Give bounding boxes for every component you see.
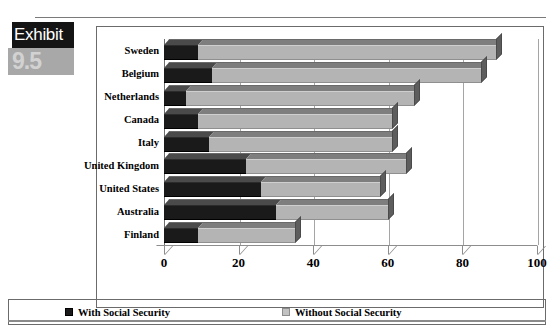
category-label: Belgium (122, 68, 159, 79)
bar-segment[interactable] (164, 91, 186, 106)
axis-tick-label: 60 (381, 255, 394, 271)
bar-end-cap (295, 216, 301, 243)
exhibit-label-block: Exhibit 9.5 (12, 22, 74, 75)
top-divider-rule (35, 17, 546, 18)
bottom-divider-rule (8, 320, 546, 322)
bar-segment[interactable] (276, 205, 388, 220)
bar-row (164, 108, 537, 131)
bar-segment[interactable] (164, 114, 198, 129)
legend-item-with-social-security: With Social Security (65, 307, 170, 318)
bar-segment[interactable] (261, 182, 380, 197)
black-square-icon (65, 308, 73, 316)
legend-item-without-social-security: Without Social Security (282, 307, 402, 318)
bar-top-face (164, 62, 218, 68)
category-label: United States (99, 183, 159, 194)
bar-top-face (164, 199, 281, 205)
bar-segment[interactable] (164, 45, 198, 60)
bar-top-face (186, 85, 419, 91)
plot-area (164, 39, 537, 245)
category-label: Australia (117, 206, 159, 217)
bar-segment[interactable] (164, 68, 212, 83)
bar-end-cap (406, 147, 412, 174)
bar-row (164, 39, 537, 62)
bar-top-face (198, 108, 397, 114)
bar-end-cap (380, 170, 386, 197)
gridline (538, 39, 539, 245)
bar-row (164, 176, 537, 199)
bar-segment[interactable] (186, 91, 414, 106)
axis-tick-label: 0 (161, 255, 168, 271)
chart-frame: SwedenBelgiumNetherlandsCanadaItalyUnite… (96, 26, 544, 308)
exhibit-number: 9.5 (8, 48, 74, 75)
bar-top-face (164, 176, 266, 182)
bar-top-face (198, 39, 502, 45)
bar-segment[interactable] (198, 228, 295, 243)
exhibit-word: Exhibit (12, 22, 74, 48)
axis-tick-label: 80 (456, 255, 469, 271)
bar-top-face (276, 199, 393, 205)
bar-top-face (164, 131, 214, 137)
bar-end-cap (481, 56, 487, 83)
bar-top-face (246, 153, 412, 159)
category-label: Sweden (125, 45, 159, 56)
category-label: Canada (124, 114, 159, 125)
bar-row (164, 153, 537, 176)
legend-label: With Social Security (78, 307, 170, 318)
axis-tick-label: 20 (232, 255, 245, 271)
bar-row (164, 131, 537, 154)
bar-top-face (164, 153, 251, 159)
bar-segment[interactable] (164, 205, 276, 220)
category-label: Netherlands (104, 91, 159, 102)
bar-row (164, 62, 537, 85)
value-axis-tick-labels: 020406080100 (164, 255, 537, 273)
bar-segment[interactable] (212, 68, 481, 83)
bar-segment[interactable] (164, 182, 261, 197)
bar-row (164, 199, 537, 222)
axis-tick-label: 100 (527, 255, 547, 271)
axis-tick (388, 246, 389, 254)
bar-top-face (261, 176, 386, 182)
bar-top-face (212, 62, 486, 68)
category-label: United Kingdom (84, 160, 159, 171)
legend-label: Without Social Security (295, 307, 402, 318)
axis-tick-label: 40 (307, 255, 320, 271)
plot-floor-edge (156, 245, 537, 254)
gray-square-icon (282, 308, 290, 316)
bar-row (164, 85, 537, 108)
bar-end-cap (414, 79, 420, 106)
axis-tick (164, 246, 165, 254)
axis-tick (239, 246, 240, 254)
category-label: Finland (124, 229, 159, 240)
bar-segment[interactable] (198, 45, 496, 60)
bar-segment[interactable] (164, 159, 246, 174)
category-axis-labels: SwedenBelgiumNetherlandsCanadaItalyUnite… (97, 39, 163, 245)
bar-top-face (209, 131, 397, 137)
bar-end-cap (388, 193, 394, 220)
axis-tick (313, 246, 314, 254)
category-label: Italy (138, 137, 159, 148)
bar-segment[interactable] (164, 137, 209, 152)
axis-tick (462, 246, 463, 254)
bar-segment[interactable] (198, 114, 392, 129)
bar-top-face (198, 222, 300, 228)
bar-row (164, 222, 537, 245)
bar-segment[interactable] (209, 137, 392, 152)
bar-segment[interactable] (164, 228, 198, 243)
axis-tick (537, 246, 538, 254)
bar-end-cap (496, 33, 502, 60)
